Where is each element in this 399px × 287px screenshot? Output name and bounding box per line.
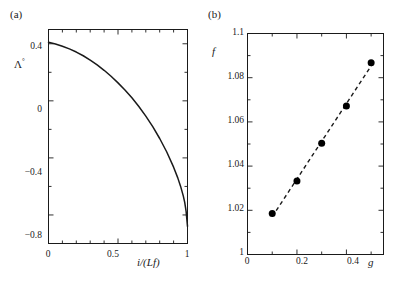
panel-a-ticks xyxy=(49,30,188,244)
panel-b-data-point xyxy=(269,210,276,217)
panel-b-data-points xyxy=(269,59,375,217)
panel-b-data-point xyxy=(368,59,375,66)
panel-b-plot xyxy=(200,0,399,287)
panel-a-axes-frame xyxy=(49,30,188,244)
figure-canvas: (a) Λ° i/(Lf) 0.4 0 −0.4 −0.8 0 0.5 1 (b… xyxy=(0,0,399,287)
panel-b-data-point xyxy=(293,177,300,184)
panel-a-data-curve xyxy=(49,42,188,226)
panel-a-plot xyxy=(0,0,200,287)
panel-b-axes-frame xyxy=(248,34,384,255)
panel-b: (b) f g 1.1 1.08 1.06 1.04 1.02 1 0 0.2 … xyxy=(200,0,399,287)
panel-a: (a) Λ° i/(Lf) 0.4 0 −0.4 −0.8 0 0.5 1 xyxy=(0,0,200,287)
panel-b-data-point xyxy=(318,140,325,147)
panel-b-ticks xyxy=(248,34,384,255)
panel-b-data-point xyxy=(343,102,350,109)
